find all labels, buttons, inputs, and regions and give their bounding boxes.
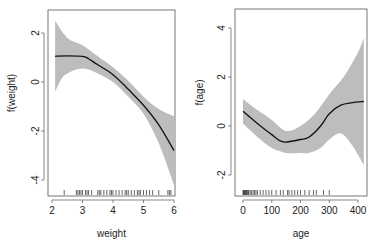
panel-age: 0100200300400 420-2 age f(age) — [194, 9, 367, 239]
x-tick-label: 300 — [321, 205, 338, 216]
y-axis-title: f(weight) — [6, 74, 17, 112]
rug-marks — [64, 190, 171, 195]
x-tick-label: 2 — [49, 205, 55, 216]
y-tick-label: 0 — [216, 123, 227, 129]
x-tick-label: 5 — [141, 205, 147, 216]
x-tick-label: 4 — [110, 205, 116, 216]
x-tick-label: 6 — [171, 205, 177, 216]
x-tick-label: 3 — [80, 205, 86, 216]
x-axis-title: age — [293, 228, 310, 239]
x-tick-label: 0 — [240, 205, 246, 216]
x-tick-label: 200 — [292, 205, 309, 216]
y-tick-label: -2 — [216, 170, 227, 179]
x-axis-title: weight — [96, 228, 126, 239]
y-axis: 420-2 — [216, 25, 231, 180]
panel-weight: 23456 20-2-4 weight f(weight) — [6, 10, 177, 239]
confidence-band — [55, 21, 174, 185]
y-tick-label: 0 — [30, 79, 41, 85]
confidence-band — [243, 38, 364, 165]
x-tick-label: 100 — [263, 205, 280, 216]
x-axis: 23456 — [49, 200, 177, 216]
x-axis: 0100200300400 — [240, 200, 367, 216]
y-tick-label: 2 — [216, 74, 227, 80]
rug-marks — [243, 190, 329, 195]
y-tick-label: 2 — [30, 30, 41, 36]
y-axis-title: f(age) — [194, 79, 205, 105]
chart-canvas: 23456 20-2-4 weight f(weight) 0100200300… — [0, 0, 374, 247]
y-tick-label: -4 — [30, 175, 41, 184]
y-tick-label: -2 — [30, 126, 41, 135]
x-tick-label: 400 — [350, 205, 367, 216]
y-tick-label: 4 — [216, 25, 227, 31]
y-axis: 20-2-4 — [30, 30, 44, 185]
